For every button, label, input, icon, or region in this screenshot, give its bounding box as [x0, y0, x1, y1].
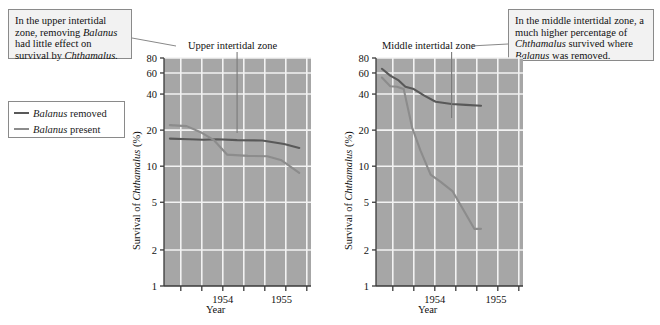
legend: Balanus removed Balanus present — [8, 101, 125, 138]
legend-swatch-removed — [14, 112, 29, 114]
y-tick-label: 60 — [147, 68, 158, 79]
legend-label-removed: Balanus removed — [33, 108, 107, 119]
y-tick-label: 2 — [152, 245, 157, 256]
chart-middle-intertidal-zone: Middle intertidal zone Survival of Chtha… — [330, 0, 545, 325]
plot-area-upper: 125102040608019541955 — [118, 0, 333, 325]
x-tick-label: 1955 — [271, 294, 292, 305]
y-tick-label: 1 — [152, 281, 157, 292]
y-tick-label: 80 — [147, 53, 158, 64]
callout-upper-zone: In the upper intertidal zone, removing B… — [8, 9, 132, 59]
y-tick-label: 5 — [364, 197, 369, 208]
y-tick-label: 40 — [359, 89, 370, 100]
y-tick-label: 1 — [364, 281, 369, 292]
legend-label-present: Balanus present — [33, 124, 100, 135]
legend-item-balanus-present: Balanus present — [14, 121, 119, 137]
figure-root: In the upper intertidal zone, removing B… — [0, 0, 660, 325]
y-tick-label: 20 — [147, 125, 158, 136]
plot-area-middle: 125102040608019541955 — [330, 0, 545, 325]
y-tick-label: 40 — [147, 89, 158, 100]
y-tick-label: 20 — [359, 125, 370, 136]
y-tick-label: 5 — [152, 197, 157, 208]
y-tick-label: 60 — [359, 68, 370, 79]
x-tick-label: 1955 — [486, 294, 507, 305]
y-tick-label: 2 — [364, 245, 369, 256]
x-tick-label: 1954 — [424, 294, 446, 305]
x-tick-label: 1954 — [212, 294, 234, 305]
y-tick-label: 80 — [359, 53, 370, 64]
chart-upper-intertidal-zone: Upper intertidal zone Survival of Chtham… — [118, 0, 333, 325]
y-tick-label: 10 — [359, 161, 370, 172]
legend-item-balanus-removed: Balanus removed — [14, 105, 119, 121]
legend-swatch-present — [14, 128, 29, 130]
y-tick-label: 10 — [147, 161, 158, 172]
